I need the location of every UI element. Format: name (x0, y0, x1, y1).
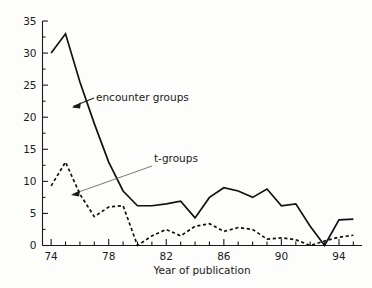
y-tick-label: 10 (23, 175, 36, 187)
t-groups-label: t-groups (154, 152, 198, 164)
x-tick-label: 78 (102, 250, 115, 262)
annotation-t-groups: t-groups (71, 152, 198, 197)
encounter-groups-arrow-icon (72, 103, 81, 109)
y-tick-label: 0 (30, 239, 37, 251)
x-tick-label: 82 (160, 250, 173, 262)
y-axis-tick-labels: 05101520253035 (23, 15, 36, 252)
y-tick-label: 5 (30, 207, 37, 219)
x-tick-label: 86 (217, 250, 231, 262)
x-tick-label: 74 (44, 250, 58, 262)
x-axis-tick-labels: 747882869094 (44, 250, 346, 262)
annotation-encounter-groups: encounter groups (72, 91, 189, 109)
y-axis-ticks (43, 21, 49, 246)
encounter-groups-label: encounter groups (96, 91, 189, 103)
x-tick-label: 90 (275, 250, 288, 262)
y-tick-label: 15 (23, 143, 36, 155)
y-tick-label: 30 (23, 47, 36, 59)
chart-figure: 05101520253035 747882869094 Year of publ… (0, 0, 372, 288)
t-groups-arrow-icon (71, 191, 80, 197)
y-axis: 05101520253035 (23, 15, 48, 252)
x-tick-label: 94 (332, 250, 346, 262)
x-axis-title: Year of publication (152, 264, 250, 276)
line-chart-plot: 05101520253035 747882869094 Year of publ… (0, 0, 372, 288)
series-line-encounter-groups (51, 34, 353, 246)
y-tick-label: 35 (23, 15, 36, 27)
y-tick-label: 20 (23, 111, 36, 123)
data-series-group (51, 34, 353, 246)
series-line-t-groups (51, 162, 353, 245)
y-tick-label: 25 (23, 79, 36, 91)
